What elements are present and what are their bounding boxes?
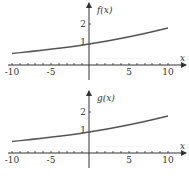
plot-g: -10 -5 5 10 2 1 g(x) x [5, 91, 186, 168]
tick-label: 2 [80, 107, 86, 117]
tick-label: -5 [47, 155, 56, 165]
tick-label: 10 [162, 155, 174, 165]
tick-label: 5 [126, 155, 132, 165]
g-curve [12, 116, 168, 142]
tick-label: 10 [162, 67, 174, 77]
x-axis-label: x [180, 53, 185, 63]
tick-label: -10 [5, 67, 20, 77]
x-axis-label: x [180, 141, 185, 151]
tick-label: -10 [5, 155, 20, 165]
chart-canvas: -10 -5 5 10 2 1 f(x) x -10 -5 5 10 2 1 g… [0, 0, 189, 176]
y-axis-label: g(x) [97, 93, 115, 103]
tick-label: -5 [47, 67, 56, 77]
y-axis-label: f(x) [96, 5, 113, 15]
f-curve [12, 28, 168, 54]
plot-f: -10 -5 5 10 2 1 f(x) x [5, 3, 186, 80]
tick-label: 2 [80, 19, 86, 29]
tick-label: 5 [126, 67, 132, 77]
